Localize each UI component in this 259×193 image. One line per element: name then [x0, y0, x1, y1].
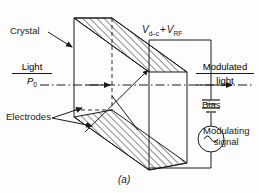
input-light-power: P0 [12, 74, 52, 88]
crystal-label: Crystal [10, 26, 40, 36]
voltage-rf-symbol: V [167, 24, 174, 35]
voltage-label: Vd–c+VRF [142, 24, 182, 37]
voltage-rf-subscript: RF [174, 30, 183, 37]
crystal-leader-arrow [48, 32, 72, 47]
input-light-label: Light P0 [12, 61, 52, 88]
output-light-label: Modulated light [196, 61, 254, 86]
voltage-dc-symbol: V [142, 24, 149, 35]
voltage-operator: + [159, 24, 167, 35]
electrode-plate-bottom [74, 110, 187, 170]
input-light-numerator: Light [12, 61, 52, 74]
electrodes-label: Electrodes [6, 112, 51, 122]
electro-optic-modulator-figure: Crystal Electrodes Light P0 Modulated li… [0, 0, 259, 193]
bias-label: Bias [202, 100, 220, 110]
modulating-signal-line2: signal [203, 137, 249, 148]
voltage-dc-subscript: d–c [149, 30, 159, 37]
modulating-signal-label: Modulating signal [203, 126, 249, 147]
output-light-numerator: Modulated [196, 61, 254, 74]
output-light-denominator: light [196, 74, 254, 86]
figure-caption: (a) [118, 174, 130, 185]
